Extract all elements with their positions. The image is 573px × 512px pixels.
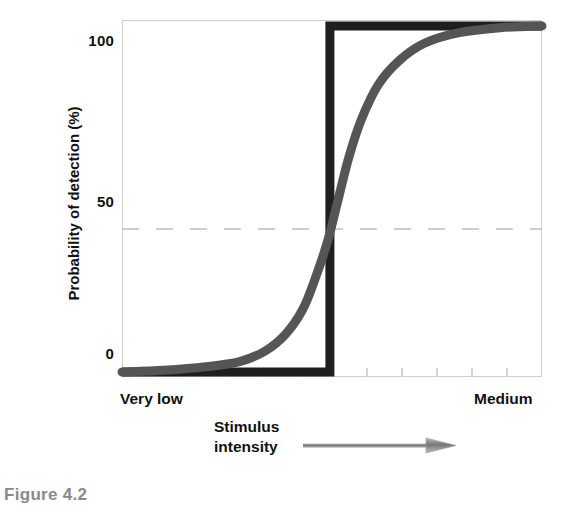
- stimulus-intensity-arrow: [300, 430, 465, 460]
- x-axis-label-right: Medium: [474, 390, 533, 408]
- arrow-right-icon: [300, 430, 465, 460]
- figure-caption: Figure 4.2: [4, 485, 87, 505]
- x-axis-label-left: Very low: [120, 390, 183, 408]
- y-axis-title: Probability of detection (%): [65, 54, 82, 354]
- plot-area: [122, 20, 542, 377]
- x-axis-title-line2: intensity: [214, 437, 279, 457]
- y-tick-label-100: 100: [66, 32, 114, 49]
- figure-container: 100 50 0 Probability of detection (%) Ve…: [0, 0, 573, 512]
- x-axis-title: Stimulus intensity: [214, 417, 279, 457]
- x-axis-title-line1: Stimulus: [214, 417, 279, 437]
